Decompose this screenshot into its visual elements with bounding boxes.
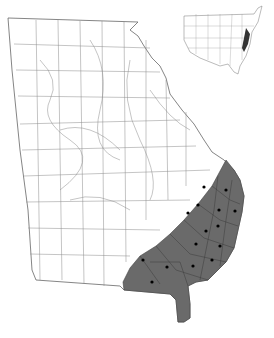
us-outline xyxy=(184,6,262,74)
us-inset-map xyxy=(184,6,262,74)
georgia-map xyxy=(0,0,274,338)
